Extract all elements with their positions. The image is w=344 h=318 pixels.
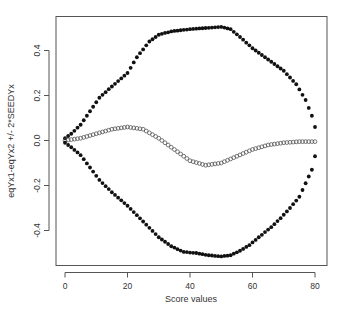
data-point-filled [266, 228, 270, 232]
data-point-filled [235, 32, 239, 36]
data-point-filled [85, 114, 89, 118]
data-point-filled [126, 204, 130, 208]
data-point-filled [119, 198, 123, 202]
x-tick-label: 40 [185, 281, 195, 291]
y-axis: -0.4-0.20.00.20.4 [32, 44, 49, 238]
x-axis: 020406080 [63, 273, 320, 291]
series-1 [63, 125, 317, 167]
data-point-filled [76, 126, 80, 130]
data-point-filled [310, 114, 314, 118]
chart: 020406080 -0.4-0.20.00.20.4 Score values… [0, 0, 344, 318]
data-point-filled [85, 162, 89, 166]
series-0 [63, 25, 317, 140]
data-point-filled [288, 76, 292, 80]
data-point-filled [119, 77, 123, 81]
y-tick-label: 0.4 [32, 44, 42, 56]
data-point-filled [91, 170, 95, 174]
data-point-filled [132, 61, 136, 65]
data-point-filled [254, 49, 258, 53]
data-point-filled [116, 196, 120, 200]
data-point-filled [166, 242, 170, 246]
data-point-filled [160, 238, 164, 242]
data-point-filled [72, 129, 76, 133]
data-point-filled [276, 64, 280, 68]
data-point-filled [129, 207, 133, 211]
data-point-filled [257, 235, 261, 239]
data-point-filled [310, 168, 314, 172]
data-point-filled [76, 151, 80, 155]
data-point-filled [66, 134, 70, 138]
x-axis-label: Score values [165, 294, 218, 304]
data-point-filled [285, 72, 289, 76]
data-point-filled [254, 238, 258, 242]
data-point-filled [135, 213, 139, 217]
y-tick-label: -0.2 [32, 178, 42, 193]
data-point-filled [122, 74, 126, 78]
data-point-filled [147, 226, 151, 230]
data-point-filled [147, 40, 151, 44]
data-point-filled [251, 46, 255, 50]
data-point-filled [257, 51, 261, 55]
data-point-filled [141, 47, 145, 51]
x-tick-label: 80 [310, 281, 320, 291]
data-point-filled [244, 41, 248, 45]
data-point-filled [79, 153, 83, 157]
data-point-filled [291, 202, 295, 206]
y-axis-label: eqYx1-eqYx2 +/- 2*SEEDYx [6, 84, 16, 198]
data-point-filled [247, 243, 251, 247]
data-point-filled [232, 30, 236, 34]
data-point-filled [141, 220, 145, 224]
y-tick-label: 0.2 [32, 89, 42, 101]
data-point-filled [79, 123, 83, 127]
data-point-filled [313, 125, 317, 129]
data-point-filled [107, 87, 111, 91]
data-point-filled [304, 181, 308, 185]
data-point-filled [113, 193, 117, 197]
data-point-filled [251, 241, 255, 245]
data-point-filled [307, 175, 311, 179]
data-point-filled [285, 209, 289, 213]
data-point-filled [138, 216, 142, 220]
data-point-filled [129, 66, 133, 70]
series-layer [63, 25, 317, 258]
data-point-filled [288, 206, 292, 210]
data-point-filled [138, 51, 142, 55]
data-point-filled [291, 79, 295, 83]
x-tick-label: 60 [248, 281, 258, 291]
data-point-filled [157, 235, 161, 239]
data-point-filled [82, 157, 86, 161]
data-point-filled [144, 223, 148, 227]
data-point-filled [163, 240, 167, 244]
data-point-filled [304, 98, 308, 102]
data-point-filled [151, 37, 155, 41]
data-point-filled [72, 148, 76, 152]
data-point-filled [301, 93, 305, 97]
data-point-filled [69, 132, 73, 136]
data-point-filled [294, 82, 298, 86]
data-point-filled [101, 181, 105, 185]
data-point-filled [269, 225, 273, 229]
data-point-filled [279, 216, 283, 220]
data-point-filled [82, 118, 86, 122]
data-point-filled [194, 251, 198, 255]
data-point-filled [294, 199, 298, 203]
data-point-filled [94, 100, 98, 104]
data-point-filled [107, 187, 111, 191]
data-point-filled [91, 105, 95, 109]
data-point-filled [97, 178, 101, 182]
data-point-filled [110, 85, 114, 89]
data-point-filled [297, 88, 301, 92]
data-point-filled [282, 213, 286, 217]
y-tick-label: 0.0 [32, 134, 42, 146]
x-tick-label: 20 [123, 281, 133, 291]
data-point-filled [301, 188, 305, 192]
x-tick-label: 0 [63, 281, 68, 291]
data-point-filled [66, 143, 70, 147]
data-point-filled [219, 25, 223, 29]
data-point-filled [144, 43, 148, 47]
data-point-filled [69, 145, 73, 149]
data-point-filled [132, 210, 136, 214]
data-point-filled [122, 201, 126, 205]
data-point-filled [238, 35, 242, 39]
data-point-filled [263, 230, 267, 234]
